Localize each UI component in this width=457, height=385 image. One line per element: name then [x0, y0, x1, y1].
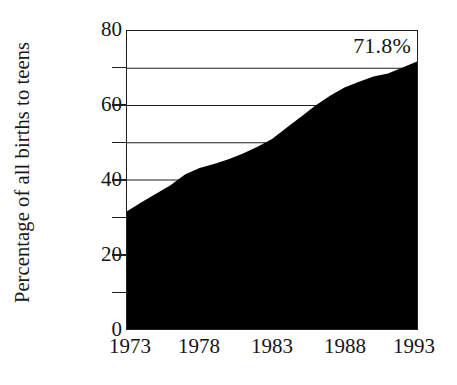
x-axis-tick-label: 1973: [109, 336, 151, 357]
value-annotation: 71.8%: [353, 33, 411, 59]
y-axis-title-container: Percentage of all births to teens: [0, 0, 46, 345]
x-axis-tick-label: 1988: [324, 336, 366, 357]
y-axis-title: Percentage of all births to teens: [12, 42, 35, 303]
area-chart-svg: [127, 31, 417, 329]
x-axis-tick-labels: 19731978198319881993: [126, 336, 418, 370]
x-axis-tick-label: 1978: [178, 336, 220, 357]
chart-figure: Percentage of all births to teens 020406…: [0, 0, 457, 385]
area-series-teen-births: [127, 62, 417, 329]
x-axis-tick-label: 1993: [393, 336, 435, 357]
x-axis-tick-label: 1983: [251, 336, 293, 357]
plot-area: 71.8%: [126, 30, 418, 330]
